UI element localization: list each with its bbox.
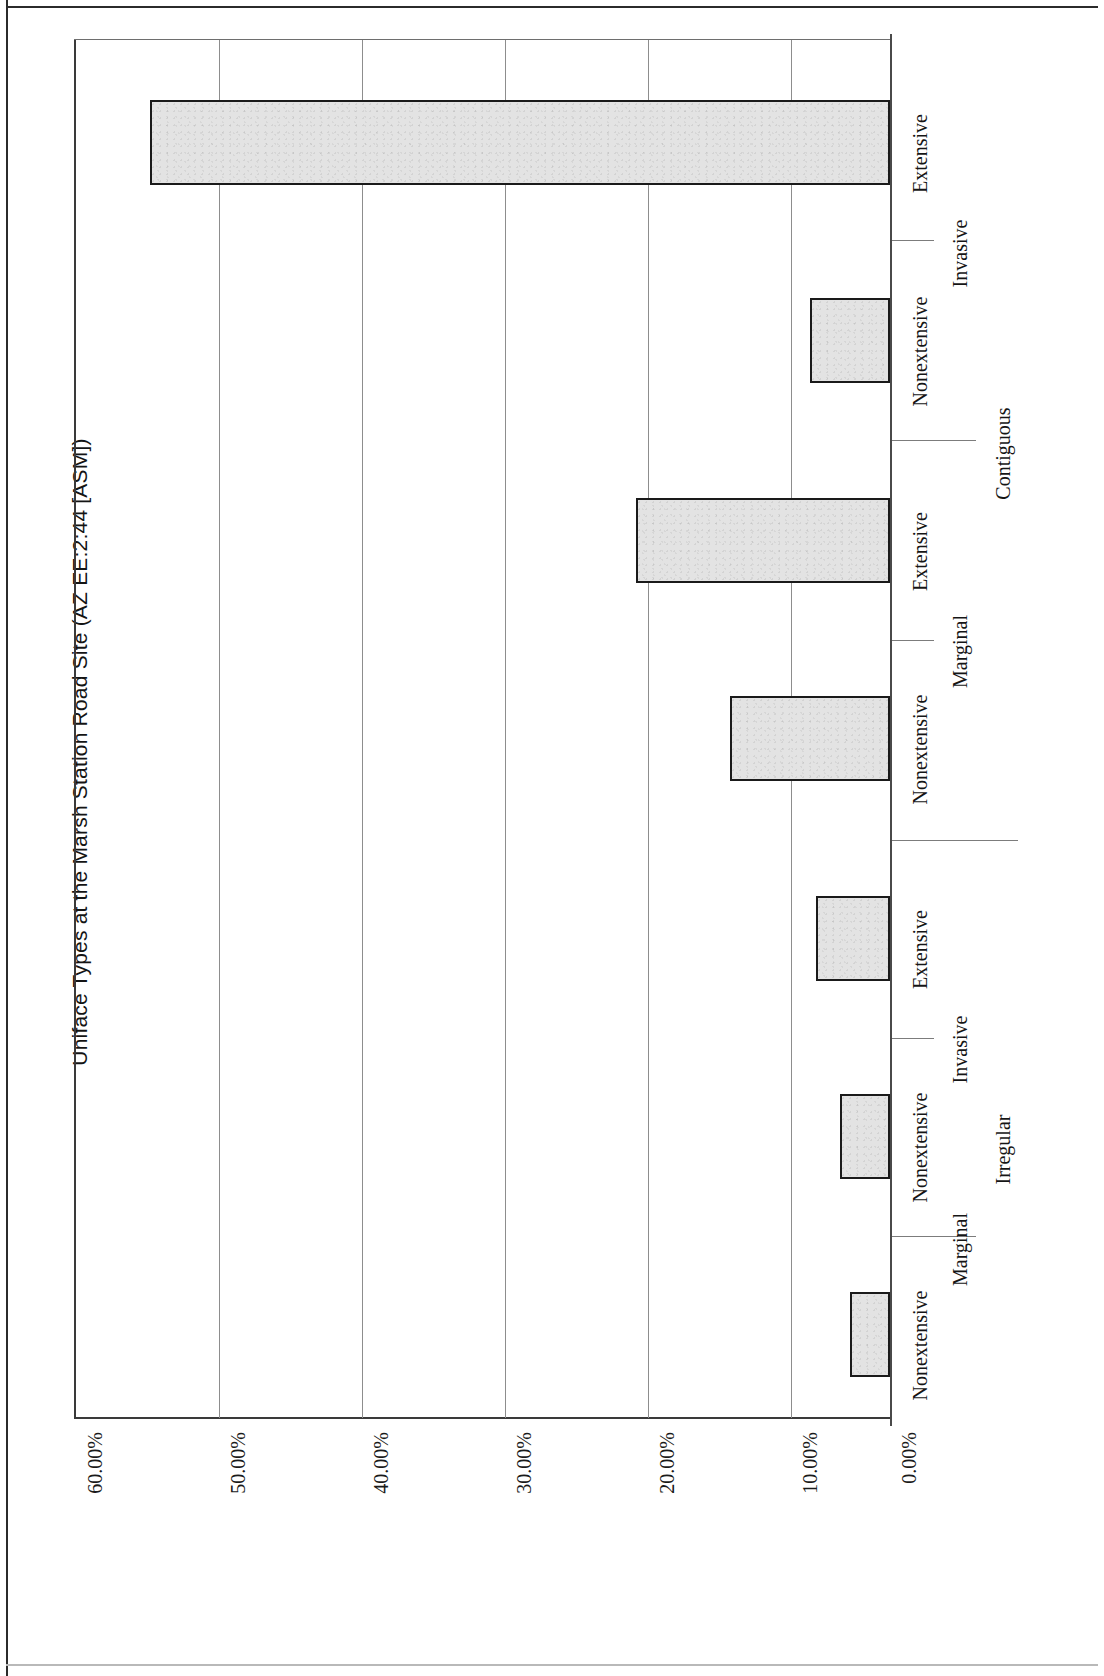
bar-irregular-invasive-extensive[interactable] — [816, 896, 890, 981]
plot-frame-bottom — [74, 1417, 892, 1419]
gridline-20 — [648, 40, 649, 1418]
bar-irregular-invasive-nonextensive[interactable] — [840, 1094, 890, 1179]
xtick-label-60: 60.00% — [84, 1432, 107, 1582]
category-label-b3-nonextensive: Nonextensive — [909, 635, 932, 865]
category-group-contiguous: Contiguous — [992, 339, 1015, 569]
xtick-label-20: 20.00% — [656, 1432, 679, 1582]
page-border-top — [6, 6, 1098, 8]
category-label-b5-nonextensive: Nonextensive — [909, 1033, 932, 1263]
bar-irregular-marginal-nonextensive[interactable] — [850, 1292, 890, 1377]
bar-contiguous-invasive-nonextensive[interactable] — [810, 298, 890, 383]
gridline-40 — [362, 40, 363, 1418]
category-group-marginal-1: Marginal — [949, 537, 972, 767]
gridline-30 — [505, 40, 506, 1418]
page-border-left — [6, 0, 8, 1676]
xtick-label-10: 10.00% — [799, 1432, 822, 1582]
category-group-marginal-2: Marginal — [949, 1135, 972, 1365]
bar-contiguous-marginal-extensive[interactable] — [636, 498, 890, 583]
category-label-b6-nonextensive: Nonextensive — [909, 1231, 932, 1461]
xtick-label-30: 30.00% — [513, 1432, 536, 1582]
category-group-invasive-2: Invasive — [949, 935, 972, 1165]
group-tick-l1-a — [892, 440, 976, 441]
category-group-invasive-1: Invasive — [949, 139, 972, 369]
page-border-bottom — [6, 1664, 1098, 1666]
xtick-label-50: 50.00% — [227, 1432, 250, 1582]
category-label-b4-extensive: Extensive — [909, 835, 932, 1065]
category-label-b2-extensive: Extensive — [909, 437, 932, 667]
plot-frame-top — [74, 39, 892, 40]
gridline-50 — [219, 40, 220, 1418]
category-label-b0-extensive: Extensive — [909, 39, 932, 269]
category-group-irregular: Irregular — [992, 1035, 1015, 1265]
bar-contiguous-invasive-extensive[interactable] — [150, 100, 890, 185]
category-label-b1-nonextensive: Nonextensive — [909, 237, 932, 467]
xtick-label-40: 40.00% — [370, 1432, 393, 1582]
bar-contiguous-marginal-nonextensive[interactable] — [730, 696, 890, 781]
chart-page: Uniface Types at the Marsh Station Road … — [0, 0, 1104, 1676]
plot-area — [74, 40, 890, 1418]
value-axis-zero — [890, 34, 892, 1426]
